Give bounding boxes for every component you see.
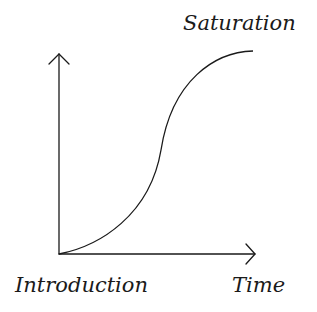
- introduction-label: Introduction: [15, 275, 148, 296]
- time-axis-label: Time: [232, 275, 285, 296]
- saturation-label: Saturation: [183, 13, 296, 34]
- y-axis: [49, 54, 69, 254]
- x-axis: [59, 244, 255, 264]
- adoption-s-curve: [59, 51, 253, 254]
- s-curve-diagram: [0, 0, 317, 312]
